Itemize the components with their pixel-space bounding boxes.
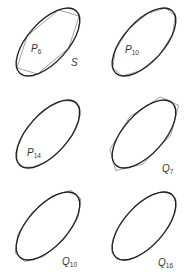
polygon-label-p10: P10 <box>125 45 139 57</box>
ellipse-with-inscribed-decagon <box>96 0 192 92</box>
panel-p6: P6 S <box>0 0 96 92</box>
ellipse-with-circumscribed-heptagon <box>96 92 192 184</box>
polygon-label-q16: Q16 <box>158 258 173 270</box>
polygon-label-q7: Q7 <box>162 164 173 176</box>
panel-q7: Q7 <box>96 92 192 184</box>
approximating-polygon <box>15 190 81 261</box>
ellipse-curve <box>101 184 187 271</box>
approximating-polygon <box>112 192 176 261</box>
polygon-label-q10: Q10 <box>62 257 77 269</box>
ellipse-with-circumscribed-16gon <box>96 184 192 276</box>
ellipse-curve <box>5 184 91 271</box>
ellipse-curve <box>101 0 187 87</box>
ellipse-with-circumscribed-decagon <box>0 184 96 276</box>
panel-q10: Q10 <box>0 184 96 276</box>
curve-label-s: S <box>71 58 78 68</box>
panel-p10: P10 <box>96 0 192 92</box>
ellipse-curve <box>5 0 91 87</box>
ellipse-with-inscribed-hexagon <box>0 0 96 92</box>
approximating-polygon <box>17 10 79 74</box>
ellipse-curve <box>5 92 91 179</box>
ellipse-with-inscribed-14gon <box>0 92 96 184</box>
panel-p14: P14 <box>0 92 96 184</box>
approximating-polygon <box>113 8 175 76</box>
polygon-label-p6: P6 <box>31 44 41 56</box>
polygon-label-p14: P14 <box>27 148 41 160</box>
panel-q16: Q16 <box>96 184 192 276</box>
